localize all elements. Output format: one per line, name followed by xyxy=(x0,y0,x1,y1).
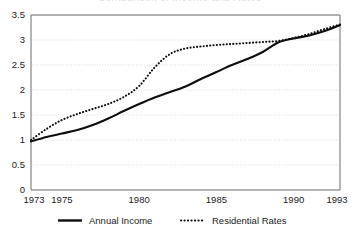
y-axis-tick-label: 2 xyxy=(20,84,25,95)
x-axis-tick-labels: 197319751980198519901993 xyxy=(23,194,347,205)
plot-frame xyxy=(31,15,340,190)
y-axis-tick-label: 1 xyxy=(20,134,25,145)
chart-legend: Annual IncomeResidential Rates xyxy=(58,215,287,226)
y-axis-tick-label: 1.5 xyxy=(12,109,25,120)
y-axis-tick-labels: 00.511.522.533.5 xyxy=(12,9,25,195)
x-axis-tick-label: 1973 xyxy=(23,194,44,205)
legend-label: Annual Income xyxy=(89,215,152,226)
x-axis-tick-label: 1985 xyxy=(206,194,227,205)
x-axis-tick-label: 1975 xyxy=(51,194,72,205)
series-line-residential-rates xyxy=(31,25,340,141)
y-axis-tick-label: 2.5 xyxy=(12,59,25,70)
series-line-annual-income xyxy=(31,25,340,142)
legend-label: Residential Rates xyxy=(212,215,287,226)
x-axis-tick-label: 1993 xyxy=(326,194,347,205)
x-axis-tick-label: 1980 xyxy=(129,194,150,205)
line-chart: 00.511.522.533.5 19731975198019851990199… xyxy=(0,0,359,235)
x-axis-tick-label: 1990 xyxy=(283,194,304,205)
y-axis-tick-label: 3 xyxy=(20,34,25,45)
y-axis-tick-label: 0.5 xyxy=(12,159,25,170)
data-series xyxy=(31,25,340,142)
chart-figure: Comparison of Income and Rates 00.511.52… xyxy=(0,0,359,235)
y-axis-tick-label: 3.5 xyxy=(12,9,25,20)
